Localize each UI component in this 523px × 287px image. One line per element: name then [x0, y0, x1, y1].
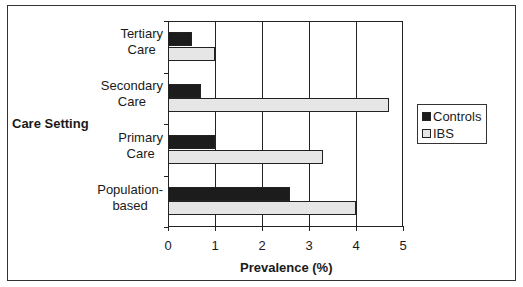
bar-controls-1	[168, 84, 201, 98]
x-tick-label: 1	[205, 238, 225, 253]
plot-area	[168, 21, 403, 227]
x-tick-label: 4	[346, 238, 366, 253]
legend-swatch-controls	[422, 112, 431, 121]
bar-controls-3	[168, 187, 290, 201]
y-tick	[164, 176, 169, 177]
x-tick	[262, 226, 263, 231]
x-tick-label: 2	[252, 238, 272, 253]
category-label-line: Tertiary	[120, 26, 163, 42]
x-tick-label: 3	[299, 238, 319, 253]
category-label-line: Primary	[118, 130, 163, 146]
y-tick	[164, 227, 169, 228]
legend: Controls IBS	[417, 104, 487, 144]
x-tick	[403, 226, 404, 231]
x-tick-label: 0	[158, 238, 178, 253]
y-tick	[164, 21, 169, 22]
x-tick	[309, 226, 310, 231]
x-tick	[215, 226, 216, 231]
y-axis-title: Care Setting	[12, 116, 89, 131]
category-label-secondary: Secondary Care	[101, 78, 163, 110]
category-label-line: based	[97, 198, 163, 214]
legend-label: IBS	[433, 126, 454, 141]
category-label-line: Secondary	[101, 78, 163, 94]
y-tick	[164, 73, 169, 74]
x-tick	[356, 226, 357, 231]
category-label-line: Care	[101, 94, 163, 110]
bar-controls-2	[168, 135, 215, 149]
gridline	[309, 22, 310, 226]
legend-item-ibs: IBS	[422, 126, 454, 141]
bar-ibs-3	[168, 201, 356, 215]
category-label-primary: Primary Care	[118, 130, 163, 162]
legend-label: Controls	[433, 109, 481, 124]
category-label-tertiary: Tertiary Care	[120, 26, 163, 58]
category-label-line: Population-	[97, 182, 163, 198]
category-label-line: Care	[118, 146, 163, 162]
y-tick	[164, 124, 169, 125]
bar-ibs-0	[168, 47, 215, 61]
legend-item-controls: Controls	[422, 109, 481, 124]
bar-controls-0	[168, 32, 192, 46]
category-label-population: Population- based	[97, 182, 163, 214]
x-axis-title: Prevalence (%)	[240, 260, 333, 275]
gridline	[356, 22, 357, 226]
legend-swatch-ibs	[422, 129, 431, 138]
bar-ibs-1	[168, 98, 389, 112]
bar-ibs-2	[168, 150, 323, 164]
category-label-line: Care	[120, 42, 163, 58]
x-tick-label: 5	[393, 238, 413, 253]
